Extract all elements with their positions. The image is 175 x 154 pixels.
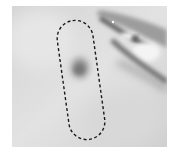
photo-canvas: [12, 6, 167, 147]
skin-photo: [12, 6, 167, 147]
